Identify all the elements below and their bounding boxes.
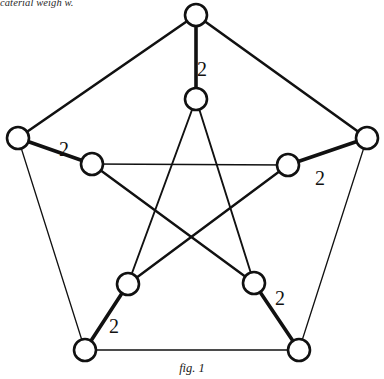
graph-vertex-inner-top [185, 88, 207, 110]
graph-edge-inner-bottom-right-to-inner-left [92, 164, 254, 283]
graph-vertex-outer-bottom-left [74, 339, 96, 361]
figure-page: caterial weigh w. 22222 fig. 1 [0, 0, 384, 379]
weight-label-top: 2 [197, 58, 207, 80]
graph-edge-outer-right-to-outer-bottom-right [299, 138, 367, 350]
graph-edge-outer-top-to-outer-right [196, 15, 367, 138]
graph-vertex-inner-bottom-right [243, 272, 265, 294]
weight-label-right: 2 [315, 167, 325, 189]
graph-vertex-inner-left [81, 153, 103, 175]
weight-label-bottom-left: 2 [109, 315, 119, 337]
graph-edge-outer-bottom-left-to-outer-left [18, 138, 85, 350]
graph-vertex-inner-bottom-left [117, 273, 139, 295]
graph-vertex-outer-left [7, 127, 29, 149]
petersen-graph-figure: 22222 [0, 0, 384, 379]
graph-vertex-outer-bottom-right [288, 339, 310, 361]
weight-label-left: 2 [59, 138, 69, 160]
graph-edge-inner-right-to-inner-bottom-left [128, 165, 288, 284]
weight-label-bottom-right: 2 [275, 287, 285, 309]
graph-edge-outer-left-to-outer-top [18, 15, 196, 138]
graph-vertex-inner-right [277, 154, 299, 176]
graph-edge-inner-bottom-left-to-inner-top [128, 99, 196, 284]
graph-vertex-outer-top [185, 4, 207, 26]
graph-edge-inner-left-to-inner-right [92, 164, 288, 165]
graph-edge-outer-right-to-inner-right [288, 138, 367, 165]
graph-vertex-outer-right [356, 127, 378, 149]
graph-edge-inner-top-to-inner-bottom-right [196, 99, 254, 283]
figure-caption: fig. 1 [0, 361, 384, 375]
